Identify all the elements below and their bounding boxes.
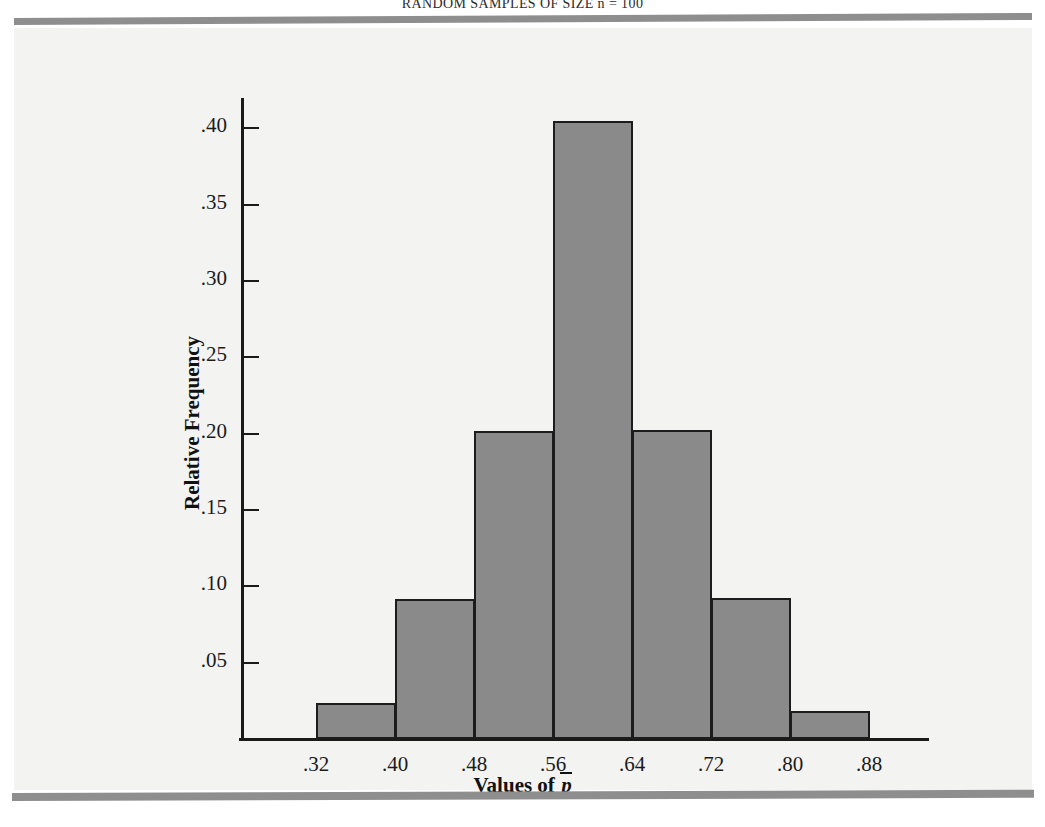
y-axis-title: Relative Frequency [180, 336, 205, 510]
figure-page: RANDOM SAMPLES OF SIZE n = 100 .05.10.15… [0, 0, 1045, 827]
y-tick-label: .40 [157, 113, 227, 138]
histogram-bar [711, 598, 791, 739]
y-tick-mark [244, 662, 259, 664]
histogram-bar [790, 711, 870, 739]
histogram-bar [553, 121, 633, 739]
y-tick-label: .05 [157, 648, 227, 673]
histogram-bar [632, 430, 712, 739]
top-rule-divider [14, 13, 1032, 25]
histogram-bar [395, 599, 475, 739]
y-tick-mark [244, 127, 259, 129]
running-head: RANDOM SAMPLES OF SIZE n = 100 [0, 0, 1045, 12]
histogram-bar [316, 703, 396, 739]
y-tick-mark [244, 280, 259, 282]
y-tick-mark [244, 585, 259, 587]
y-tick-mark [244, 433, 259, 435]
histogram-plot-area: .05.10.15.20.25.30.35.40 .32.40.48.56.64… [241, 98, 931, 743]
y-tick-label: .35 [157, 190, 227, 215]
histogram-bar [474, 431, 554, 739]
y-tick-mark [244, 356, 259, 358]
y-axis-line [241, 98, 244, 740]
y-tick-label: .30 [157, 266, 227, 291]
y-tick-mark [244, 509, 259, 511]
y-tick-label: .10 [157, 571, 227, 596]
y-tick-mark [244, 204, 259, 206]
figure-panel: .05.10.15.20.25.30.35.40 .32.40.48.56.64… [14, 28, 1032, 790]
